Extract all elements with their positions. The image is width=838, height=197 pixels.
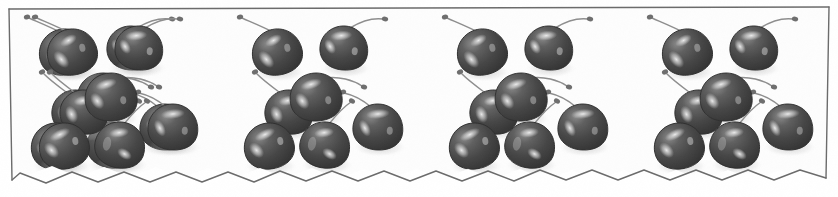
cherry-border-screenshot: Cherry border strip bbox=[0, 0, 838, 197]
cherry-border-artwork bbox=[0, 0, 838, 197]
scan-grain-overlay bbox=[0, 0, 838, 197]
